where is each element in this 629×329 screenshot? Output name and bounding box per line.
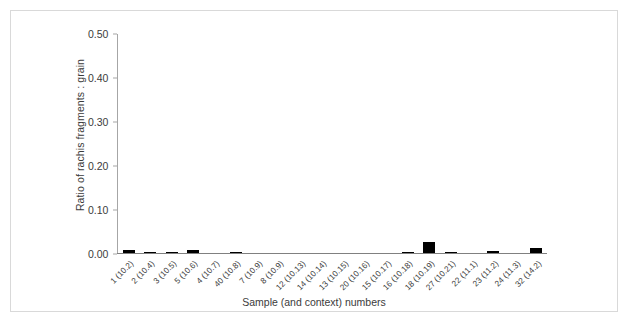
chart-figure: Ratio of rachis fragments : grain 0.000.…	[10, 10, 618, 312]
bar-slot	[290, 34, 311, 253]
y-tick-mark	[113, 34, 117, 35]
bar-slot	[118, 34, 139, 253]
y-tick-label: 0.20	[88, 160, 108, 172]
bar	[144, 252, 156, 253]
bar-slot	[204, 34, 225, 253]
bar	[423, 242, 435, 253]
y-tick-mark	[113, 78, 117, 79]
bar-slot	[268, 34, 289, 253]
bar-slot	[397, 34, 418, 253]
y-tick-mark	[113, 254, 117, 255]
plot-area: 0.000.100.200.300.400.50	[117, 34, 547, 254]
bar-slot	[375, 34, 396, 253]
bar-slot	[311, 34, 332, 253]
y-tick-label: 0.40	[88, 72, 108, 84]
bar-slot	[440, 34, 461, 253]
y-axis-title: Ratio of rachis fragments : grain	[74, 30, 86, 240]
y-tick-label: 0.30	[88, 116, 108, 128]
bar	[166, 252, 178, 253]
bar	[123, 250, 135, 253]
x-axis-title: Sample (and context) numbers	[11, 296, 617, 308]
bar-slot	[418, 34, 439, 253]
bar-slot	[225, 34, 246, 253]
bar	[445, 252, 457, 253]
bar-slot	[461, 34, 482, 253]
bar-slot	[526, 34, 547, 253]
y-tick-mark	[113, 166, 117, 167]
x-axis-line	[117, 253, 547, 254]
y-tick-mark	[113, 210, 117, 211]
x-tick-label: 1 (10.2)	[109, 259, 136, 286]
bar-slot	[354, 34, 375, 253]
bar	[187, 250, 199, 253]
y-tick-mark	[113, 122, 117, 123]
bar-slot	[483, 34, 504, 253]
bar-slot	[504, 34, 525, 253]
y-tick-label: 0.50	[88, 28, 108, 40]
y-tick-label: 0.10	[88, 204, 108, 216]
bar	[402, 252, 414, 253]
bar-slot	[182, 34, 203, 253]
bar-slot	[139, 34, 160, 253]
bar-slot	[247, 34, 268, 253]
bar	[230, 252, 242, 253]
bar-slot	[333, 34, 354, 253]
bar	[487, 251, 499, 253]
bar	[530, 248, 542, 253]
y-tick-label: 0.00	[88, 248, 108, 260]
bar-slot	[161, 34, 182, 253]
bar-series	[118, 34, 547, 253]
